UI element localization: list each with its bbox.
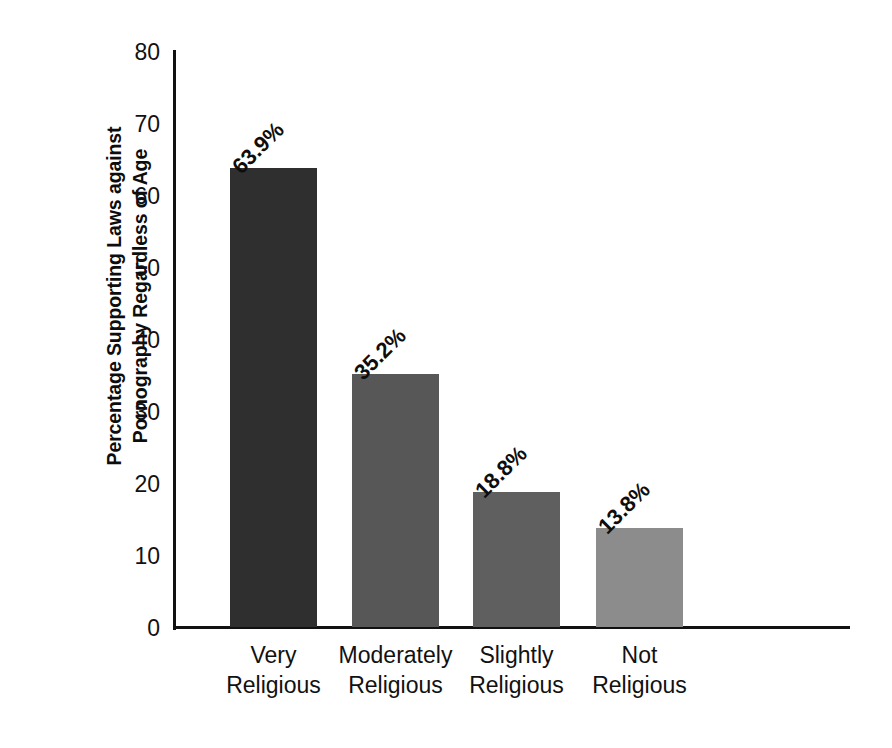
bars-layer: 63.9%VeryReligious35.2%ModeratelyReligio… <box>0 0 892 748</box>
x-axis-label-line: Religious <box>530 670 750 700</box>
bar-chart: Percentage Supporting Laws against Porno… <box>0 0 892 748</box>
x-axis-label-line: Not <box>530 640 750 670</box>
bar-4[interactable] <box>596 528 683 627</box>
x-axis-label-4: NotReligious <box>530 640 750 700</box>
bar-2[interactable] <box>352 374 439 627</box>
bar-1[interactable] <box>230 168 317 627</box>
bar-3[interactable] <box>473 492 560 627</box>
